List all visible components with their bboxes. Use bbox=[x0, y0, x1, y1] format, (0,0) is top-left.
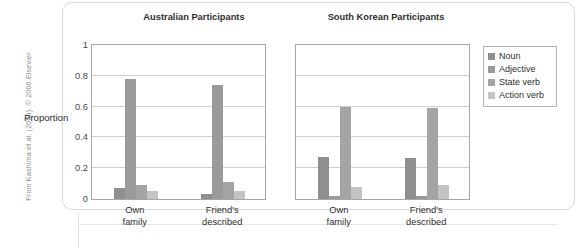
y-tick-label: 0 bbox=[83, 194, 88, 204]
bar-adjective bbox=[329, 196, 340, 199]
bar-action-verb bbox=[234, 191, 245, 199]
category-label-line: Friend's bbox=[177, 205, 267, 217]
category-label-line: Own bbox=[90, 205, 180, 217]
y-axis-tick-labels: 10.80.60.40.20 bbox=[60, 0, 88, 248]
category-label-line: described bbox=[381, 217, 471, 229]
legend-item: Noun bbox=[488, 50, 552, 62]
category-label-line: Own bbox=[294, 205, 384, 217]
category-label-line: family bbox=[90, 217, 180, 229]
bar-action-verb bbox=[147, 191, 158, 199]
legend-label: Noun bbox=[499, 51, 521, 61]
legend-swatch-icon bbox=[488, 66, 495, 73]
y-tick-label: 0.2 bbox=[75, 163, 88, 173]
bar-action-verb bbox=[351, 187, 362, 199]
bars-south-korean bbox=[296, 45, 469, 199]
category-label-line: described bbox=[177, 217, 267, 229]
bar-noun bbox=[114, 188, 125, 199]
bar-noun bbox=[405, 158, 416, 199]
bar-adjective bbox=[212, 85, 223, 199]
bar-state-verb bbox=[427, 108, 438, 199]
bar-adjective bbox=[125, 79, 136, 199]
panel-title-south-korean: South Korean Participants bbox=[302, 12, 470, 22]
bar-adjective bbox=[416, 196, 427, 199]
panel-title-australian: Australian Participants bbox=[118, 12, 270, 22]
legend-label: Action verb bbox=[499, 90, 544, 100]
plot-panel-australian bbox=[91, 44, 266, 200]
category-label: Friend'sdescribed bbox=[381, 205, 471, 228]
legend-swatch-icon bbox=[488, 53, 495, 60]
bar-action-verb bbox=[438, 185, 449, 199]
legend-item: Adjective bbox=[488, 63, 552, 75]
category-label: Ownfamily bbox=[90, 205, 180, 228]
bar-state-verb bbox=[223, 182, 234, 199]
y-tick-label: 0.4 bbox=[75, 132, 88, 142]
category-label-line: family bbox=[294, 217, 384, 229]
category-label: Friend'sdescribed bbox=[177, 205, 267, 228]
bar-noun bbox=[318, 157, 329, 199]
legend-label: Adjective bbox=[499, 64, 536, 74]
y-tick-label: 0.8 bbox=[75, 71, 88, 81]
bar-noun bbox=[201, 194, 212, 199]
legend-item: Action verb bbox=[488, 89, 552, 101]
category-label-line: Friend's bbox=[381, 205, 471, 217]
bars-australian bbox=[92, 45, 265, 199]
chart-legend: NounAdjectiveState verbAction verb bbox=[483, 46, 557, 107]
y-tick-label: 0.6 bbox=[75, 102, 88, 112]
plot-panel-south-korean bbox=[295, 44, 470, 200]
legend-item: State verb bbox=[488, 76, 552, 88]
y-tick-label: 1 bbox=[83, 40, 88, 50]
bar-state-verb bbox=[340, 107, 351, 199]
bar-state-verb bbox=[136, 185, 147, 199]
legend-swatch-icon bbox=[488, 92, 495, 99]
legend-swatch-icon bbox=[488, 79, 495, 86]
category-label: Ownfamily bbox=[294, 205, 384, 228]
legend-label: State verb bbox=[499, 77, 540, 87]
source-credit: From Kashima et al. (2006). © 2006 Elsev… bbox=[24, 37, 33, 217]
